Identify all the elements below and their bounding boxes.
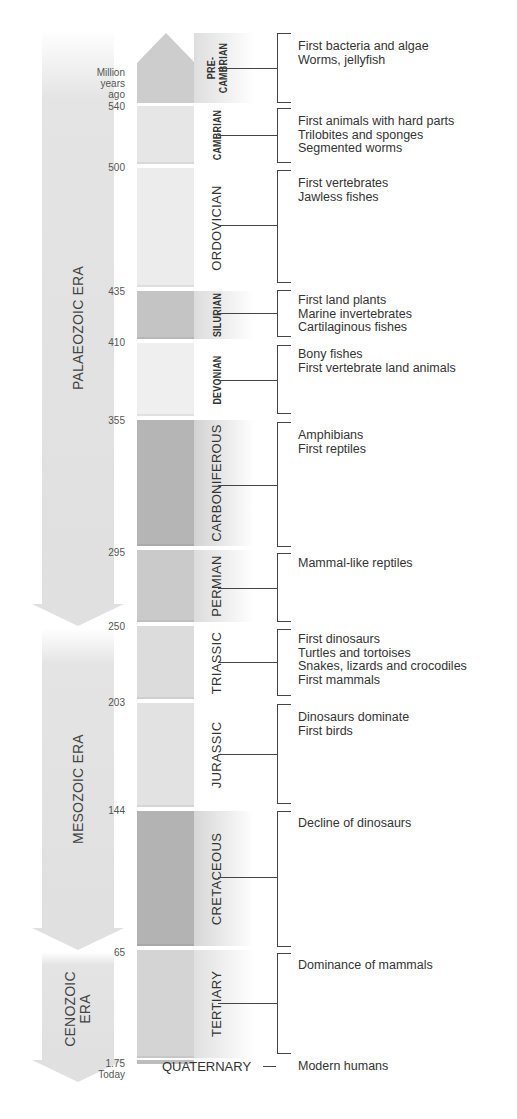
tick-410: 410: [108, 337, 125, 348]
period-label-permian: PERMIAN: [200, 550, 234, 622]
facts-cambrian: First animals with hard parts Trilobites…: [298, 115, 454, 156]
connector-line: [218, 68, 277, 69]
connector-line: [218, 754, 277, 755]
tick-500: 500: [108, 162, 125, 173]
era-label: MESOZOIC ERA: [71, 734, 86, 844]
period-label-jurassic: JURASSIC: [200, 703, 234, 807]
axis-unit-label: Million years ago: [97, 67, 125, 100]
devonian-block: [137, 343, 194, 416]
tick-435: 435: [108, 286, 125, 297]
facts-silurian: First land plants Marine invertebrates C…: [298, 294, 412, 335]
facts-devonian: Bony fishes First vertebrate land animal…: [298, 348, 456, 375]
ordovician-block: [137, 168, 194, 287]
connector-line: [218, 662, 277, 663]
pentagon-shape: [137, 33, 195, 103]
tertiary-block: [137, 950, 194, 1058]
facts-cretaceous: Decline of dinosaurs: [298, 817, 411, 831]
bracket: [277, 953, 291, 1054]
bracket: [277, 422, 291, 547]
bracket: [277, 290, 291, 337]
bracket: [277, 553, 291, 622]
tick-203: 203: [108, 697, 125, 708]
period-label-silurian: SILURIAN: [200, 291, 234, 339]
period-label-cretaceous: CRETACEOUS: [200, 811, 234, 946]
era-label: CENOZOIC ERA: [63, 971, 93, 1047]
tick-540: 540: [108, 101, 125, 112]
facts-jurassic: Dinosaurs dominate First birds: [298, 711, 409, 738]
connector-line: [218, 313, 277, 314]
arrow-head-icon: [32, 928, 124, 950]
bracket: [277, 33, 291, 103]
triassic-block: [137, 626, 194, 699]
connector-line: [218, 135, 277, 136]
facts-ordovician: First vertebrates Jawless fishes: [298, 177, 388, 204]
cambrian-block: [137, 106, 194, 164]
facts-permian: Mammal-like reptiles: [298, 557, 413, 571]
facts-carboniferous: Amphibians First reptiles: [298, 429, 366, 456]
connector-line: [218, 1003, 277, 1004]
period-label-tertiary: TERTIARY: [200, 950, 234, 1058]
bracket: [277, 170, 291, 283]
connector-line: [218, 485, 277, 486]
palaeozoic-era-arrow: PALAEOZOIC ERA: [32, 30, 124, 626]
bracket: [277, 345, 291, 414]
connector-line: [218, 588, 277, 589]
facts-quaternary: Modern humans: [298, 1060, 388, 1074]
mesozoic-era-arrow: MESOZOIC ERA: [32, 628, 124, 950]
tick-144: 144: [108, 805, 125, 816]
facts-tertiary: Dominance of mammals: [298, 959, 433, 973]
cretaceous-block: [137, 811, 194, 946]
permian-block: [137, 550, 194, 622]
period-label-carboniferous: CARBONIFEROUS: [200, 420, 234, 546]
tick-65: 65: [114, 947, 125, 958]
tick-355: 355: [108, 415, 125, 426]
connector-line: [218, 380, 277, 381]
connector-line: [218, 877, 277, 878]
period-label-ordovician: ORDOVICIAN: [200, 168, 234, 287]
carboniferous-block: [137, 420, 194, 546]
tick-1-75: 1.75 Today: [98, 1058, 125, 1080]
bracket: [277, 629, 291, 696]
facts-triassic: First dinosaurs Turtles and tortoises Sn…: [298, 633, 467, 687]
bracket: [277, 811, 291, 947]
jurassic-block: [137, 703, 194, 807]
facts-precambrian: First bacteria and algae Worms, jellyfis…: [298, 40, 429, 67]
bracket: [277, 108, 291, 163]
connector-dash: [263, 1066, 276, 1067]
bracket: [277, 704, 291, 804]
precambrian-block: [137, 33, 195, 103]
connector-line: [218, 225, 277, 226]
silurian-block: [137, 291, 194, 339]
era-label: PALAEOZOIC ERA: [71, 266, 86, 390]
tick-250: 250: [108, 621, 125, 632]
tick-295: 295: [108, 547, 125, 558]
period-label-quaternary: QUATERNARY: [162, 1059, 251, 1074]
